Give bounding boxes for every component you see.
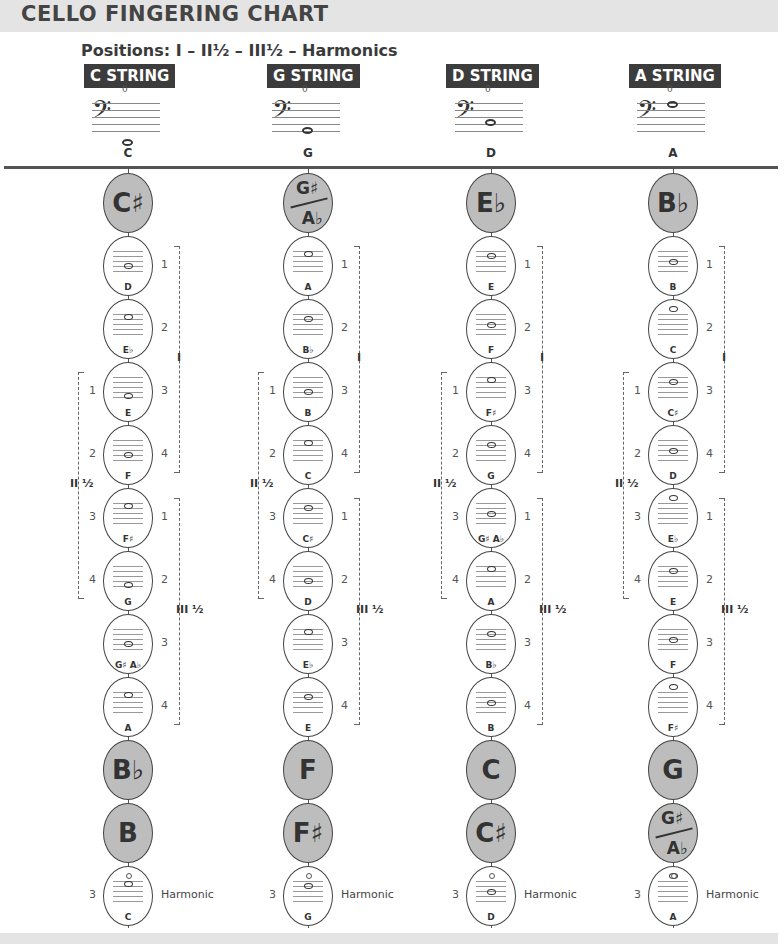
note-bubble[interactable]: A [648,866,698,926]
note-bubble[interactable]: A [466,551,516,611]
note-bubble[interactable]: C♯ [466,803,516,863]
note-bubble[interactable]: E♭ [283,614,333,674]
finger-number-left: 1 [634,384,641,397]
bass-clef-icon: 𝄢 [92,95,111,131]
note-bubble[interactable]: G [648,740,698,800]
note-name: E♭ [649,534,697,544]
staff-line [476,319,506,320]
title-bar: CELLO FINGERING CHART [0,0,778,32]
note-bubble[interactable]: G [103,551,153,611]
staff-line [113,571,143,572]
note-bubble[interactable]: D [648,425,698,485]
harmonic-circle-icon [671,873,677,879]
note-bubble[interactable]: C [466,740,516,800]
note-bubble[interactable]: D [283,551,333,611]
finger-number-left: 1 [89,384,96,397]
bass-clef-icon: 𝄢 [272,95,291,131]
note-bubble[interactable]: F♯ [648,677,698,737]
note-bubble[interactable]: C♯ [648,362,698,422]
note-bubble[interactable]: D [466,866,516,926]
note-bubble[interactable]: C [283,425,333,485]
note-bubble[interactable]: B [648,236,698,296]
finger-number-right: 1 [524,258,531,271]
note-bubble[interactable]: E [283,677,333,737]
staff-line [658,445,688,446]
note-bubble[interactable]: C [103,866,153,926]
staff-line [293,324,323,325]
staff-line [113,639,143,640]
staff-line [658,314,688,315]
note-bubble[interactable]: E♭ [466,173,516,233]
note-name: F [649,660,697,670]
finger-number-left: 2 [89,447,96,460]
staff-line [113,566,143,567]
note-name: B♭ [649,188,697,218]
note-bubble[interactable]: F [283,740,333,800]
note-bubble[interactable]: E [103,362,153,422]
note-bubble[interactable]: G [283,866,333,926]
note-bubble[interactable]: F♯ [466,362,516,422]
finger-number-left: 3 [634,510,641,523]
note-bubble[interactable]: G♯ A♭ [103,614,153,674]
staff-line [113,329,143,330]
note-bubble[interactable]: F♯ [283,803,333,863]
note-name: C [284,471,332,481]
note-bubble[interactable]: C♯ [283,488,333,548]
note-bubble[interactable]: G♯ A♭ [466,488,516,548]
staff-line [658,901,688,902]
note-name: F [467,345,515,355]
note-bubble[interactable]: F [103,425,153,485]
whole-note-icon [669,306,678,312]
note-bubble[interactable]: E♭ [103,299,153,359]
mini-staff [658,881,688,906]
note-bubble[interactable]: E [648,551,698,611]
staff-line [658,271,688,272]
note-name: F [104,471,152,481]
note-name: E♭ [467,188,515,218]
staff-line [476,440,506,441]
note-name: A [649,912,697,922]
note-name: E [649,597,697,607]
note-bubble[interactable]: E [466,236,516,296]
whole-note-icon [487,377,496,383]
harmonic-label: Harmonic [341,888,394,901]
note-bubble[interactable]: A [103,677,153,737]
staff-line [113,382,143,383]
whole-note-icon [669,684,678,690]
note-bubble[interactable]: F [648,614,698,674]
note-bubble[interactable]: B [466,677,516,737]
finger-number-right: 3 [706,636,713,649]
note-bubble[interactable]: B [103,803,153,863]
note-bubble[interactable]: F [466,299,516,359]
whole-note-icon [304,251,313,257]
note-bubble[interactable]: B♭ [648,173,698,233]
harmonic-circle-icon [489,873,495,879]
note-bubble[interactable]: C♯ [103,173,153,233]
note-name: G♯ A♭ [104,660,152,670]
staff-line [293,523,323,524]
finger-number-left: 1 [269,384,276,397]
note-bubble[interactable]: G♯A♭ [648,803,698,863]
staff-line [658,513,688,514]
note-bubble[interactable]: E♭ [648,488,698,548]
note-name-flat: A♭ [302,208,323,228]
note-bubble[interactable]: B♭ [103,740,153,800]
note-bubble[interactable]: B [283,362,333,422]
string-header: D STRING [446,64,539,88]
staff-line [293,503,323,504]
note-bubble[interactable]: D [103,236,153,296]
note-bubble[interactable]: C [648,299,698,359]
note-bubble[interactable]: G♯A♭ [283,173,333,233]
note-bubble[interactable]: G [466,425,516,485]
staff-line [293,334,323,335]
note-bubble[interactable]: F♯ [103,488,153,548]
note-bubble[interactable]: B♭ [466,614,516,674]
note-bubble[interactable]: B♭ [283,299,333,359]
finger-number-right: 3 [706,384,713,397]
staff-line [455,117,523,118]
note-bubble[interactable]: A [283,236,333,296]
whole-note-icon [304,694,313,700]
finger-number-right: 4 [706,447,713,460]
staff-line [293,891,323,892]
harmonic-label: Harmonic [524,888,577,901]
